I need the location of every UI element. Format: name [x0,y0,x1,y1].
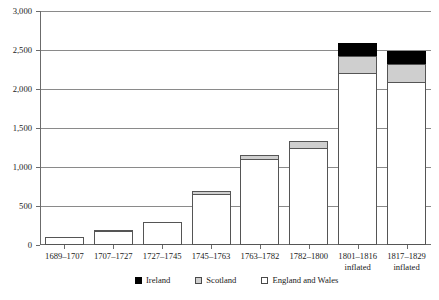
legend-item-ireland[interactable]: Ireland [135,275,170,285]
x-axis-label-1801-1816: 1801–1816inflated [338,251,377,272]
x-tick-mark [260,245,261,249]
x-axis-sublabel: inflated [338,262,377,273]
bars-layer [40,11,431,245]
x-axis-label-1707-1727: 1707–1727 [94,251,133,262]
x-axis-label-1782-1800: 1782–1800 [289,251,328,262]
x-axis-label-1745-1763: 1745–1763 [192,251,231,262]
chart-root: 05001,0001,5002,0002,5003,000 1689–17071… [0,0,439,300]
bar-1763-1782 [240,155,279,245]
x-tick-mark [162,245,163,249]
y-axis-tick-label: 2,000 [13,84,32,94]
plot-area [40,11,431,245]
bar-segment-england-and-wales [387,82,426,245]
legend-swatch-england-icon [261,277,268,284]
y-tick-mark [36,167,40,168]
y-axis-tick-label: 500 [19,201,32,211]
x-axis-label-1763-1782: 1763–1782 [241,251,280,262]
y-axis-tick-label: 3,000 [13,6,32,16]
x-axis-label-1689-1707: 1689–1707 [45,251,84,262]
y-axis-tick-label: 1,500 [13,123,32,133]
bar-segment-england-and-wales [94,231,133,245]
bar-1745-1763 [192,191,231,245]
y-tick-mark [36,206,40,207]
bar-1689-1707 [45,237,84,245]
legend-swatch-ireland-icon [135,277,142,284]
x-tick-mark [407,245,408,249]
x-tick-mark [211,245,212,249]
y-tick-mark [36,128,40,129]
bar-1817-1829 [387,51,426,245]
bar-segment-scotland [387,64,426,83]
x-axis-sublabel: inflated [387,262,426,273]
legend-label: Scotland [206,275,236,285]
bar-segment-scotland [338,56,377,74]
x-axis-label-1727-1745: 1727–1745 [143,251,182,262]
bar-segment-ireland [338,43,377,57]
bar-segment-england-and-wales [143,222,182,245]
bar-1782-1800 [289,141,328,245]
y-tick-mark [36,89,40,90]
x-tick-mark [358,245,359,249]
bar-1801-1816 [338,43,377,245]
x-tick-mark [113,245,114,249]
x-axis-ticks [40,245,431,250]
legend-item-scotland[interactable]: Scotland [195,275,236,285]
bar-segment-england-and-wales [289,148,328,245]
bar-1727-1745 [143,222,182,245]
bar-segment-england-and-wales [192,194,231,245]
y-tick-mark [36,50,40,51]
legend-swatch-scotland-icon [195,277,202,284]
y-axis-tick-label: 2,500 [13,45,32,55]
x-axis-label-1817-1829: 1817–1829inflated [387,251,426,272]
bar-segment-england-and-wales [240,159,279,245]
y-axis-tick-label: 0 [28,240,32,250]
x-tick-mark [64,245,65,249]
y-tick-mark [36,11,40,12]
x-tick-mark [309,245,310,249]
bar-1707-1727 [94,230,133,245]
y-axis-tick-label: 1,000 [13,162,32,172]
y-axis-labels: 05001,0001,5002,0002,5003,000 [0,11,36,245]
bar-segment-england-and-wales [45,237,84,245]
chart-legend: IrelandScotlandEngland and Wales [135,275,338,285]
legend-item-england[interactable]: England and Wales [261,275,338,285]
legend-label: Ireland [146,275,170,285]
bar-segment-england-and-wales [338,73,377,245]
legend-label: England and Wales [272,275,338,285]
